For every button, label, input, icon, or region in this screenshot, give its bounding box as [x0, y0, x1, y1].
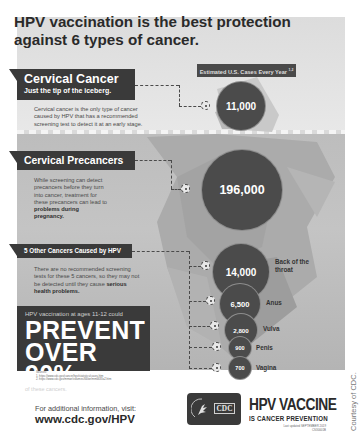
- target-icon: [206, 296, 215, 305]
- prevent-callout: HPV vaccination at ages 11-12 could PREV…: [17, 306, 150, 371]
- section-heading: Cervical Cancer: [24, 72, 135, 86]
- site-label-anus: Anus: [266, 299, 282, 307]
- connector-line: [135, 85, 179, 86]
- connector-line: [171, 189, 181, 190]
- target-icon: [201, 261, 210, 270]
- target-icon: [201, 101, 210, 110]
- cases-circle-vagina: 700: [229, 357, 251, 379]
- image-credit: Courtesy of CDC.: [349, 372, 358, 431]
- connector-line: [189, 368, 212, 369]
- cervical-precancers-banner: Cervical Precancers: [17, 151, 135, 170]
- connector-line: [132, 251, 189, 252]
- last-updated: Last updated SEPTEMBER 2019 CS30001B: [274, 425, 326, 432]
- hhs-eagle-icon: [191, 398, 213, 420]
- cases-circle-cervical-precancers: 196,000: [202, 150, 282, 230]
- connector-line: [189, 301, 206, 302]
- section-subheading: Just the tip of the iceberg.: [24, 86, 135, 96]
- campaign-subtitle: IS CANCER PREVENTION: [249, 414, 328, 423]
- page-title: HPV vaccination is the best protection a…: [14, 13, 314, 49]
- cervical-cancer-description: Cervical cancer is the only type of canc…: [34, 106, 146, 128]
- section-heading: 5 Other Cancers Caused by HPV: [24, 246, 132, 256]
- site-label-vagina: Vagina: [256, 364, 276, 372]
- target-icon: [210, 321, 219, 330]
- site-label-back-of-throat: Back of the throat: [275, 258, 311, 274]
- cases-circle-penis: 900: [229, 337, 251, 359]
- other-cancers-banner: 5 Other Cancers Caused by HPV: [17, 244, 132, 258]
- additional-info: For additional information, visit: www.c…: [35, 404, 136, 426]
- connector-line: [179, 106, 201, 107]
- target-icon: [212, 342, 221, 351]
- connector-line: [189, 347, 212, 348]
- section-heading: Cervical Precancers: [24, 154, 135, 167]
- cdc-logo: CDC: [187, 393, 241, 425]
- connector-line: [189, 251, 190, 369]
- estimated-cases-label: Estimated U.S. Cases Every Year 1,2: [197, 64, 296, 77]
- target-icon: [212, 363, 221, 372]
- sources-list: Sources: 1. https://www.cdc.gov/cancer/h…: [36, 371, 156, 382]
- other-cancers-description: There are no recommended screening tests…: [34, 266, 140, 295]
- site-label-vulva: Vulva: [263, 325, 280, 333]
- connector-line: [171, 160, 172, 189]
- campaign-title: HPV VACCINE: [249, 396, 336, 413]
- connector-line: [135, 160, 171, 161]
- connector-line: [189, 326, 210, 327]
- connector-line: [189, 266, 201, 267]
- cases-circle-cervical-cancer: 11,000: [217, 82, 265, 130]
- cervical-cancer-banner: Cervical Cancer Just the tip of the iceb…: [17, 69, 135, 100]
- site-label-penis: Penis: [256, 344, 273, 352]
- connector-line: [179, 85, 180, 106]
- target-icon: [181, 184, 190, 193]
- cdc-url-link[interactable]: www.cdc.gov/HPV: [35, 413, 136, 426]
- cervical-precancers-description: While screening can detect precancers be…: [34, 177, 110, 221]
